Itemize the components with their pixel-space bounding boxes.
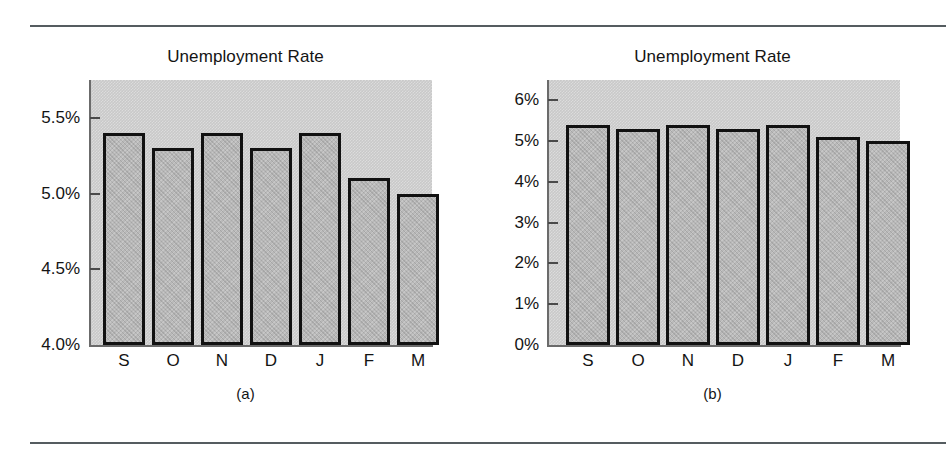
plot-area-a [90, 80, 432, 345]
y-axis-line-a [89, 80, 91, 346]
y-tick-label: 5.0% [0, 184, 80, 204]
x-tick-label-m: M [411, 351, 425, 371]
bar-series-b [548, 80, 900, 345]
y-tick-mark [90, 268, 100, 270]
y-tick-mark [548, 303, 558, 305]
top-divider-rule [30, 25, 946, 27]
x-tick-label-s: S [582, 351, 593, 371]
figure-frame: Unemployment Rate 5.5%5.0%4.5%4.0% SONDJ… [0, 0, 946, 458]
x-tick-label-j: J [784, 351, 793, 371]
x-tick-label-j: J [316, 351, 325, 371]
x-tick-label-o: O [631, 351, 644, 371]
x-tick-label-o: O [166, 351, 179, 371]
y-tick-mark [548, 99, 558, 101]
x-tick-label-f: F [833, 351, 843, 371]
bar-o [152, 148, 194, 345]
y-tick-label: 5.5% [0, 108, 80, 128]
y-tick-mark [90, 117, 100, 119]
chart-title-b: Unemployment Rate [473, 47, 946, 67]
x-tick-label-s: S [118, 351, 129, 371]
bar-f [348, 178, 390, 345]
y-tick-label: 4.0% [0, 335, 80, 355]
bottom-divider-rule [30, 442, 946, 444]
bar-s [103, 133, 145, 345]
y-tick-mark [548, 181, 558, 183]
chart-panel-b: Unemployment Rate 6%5%4%3%2%1%0% SONDJFM… [473, 30, 946, 440]
bar-f [816, 137, 860, 345]
y-tick-label: 0% [473, 335, 539, 355]
x-tick-label-d: D [732, 351, 744, 371]
y-tick-label: 6% [473, 90, 539, 110]
x-tick-label-f: F [364, 351, 374, 371]
y-tick-mark [548, 140, 558, 142]
y-tick-mark [548, 262, 558, 264]
bar-n [666, 125, 710, 345]
chart-title-a: Unemployment Rate [0, 47, 473, 67]
bar-j [766, 125, 810, 345]
plot-area-b [548, 80, 900, 345]
x-tick-label-m: M [881, 351, 895, 371]
bar-series-a [90, 80, 432, 345]
x-tick-label-n: N [216, 351, 228, 371]
x-axis-line-a [89, 345, 433, 347]
y-tick-mark [90, 193, 100, 195]
bar-m [866, 141, 910, 345]
bar-o [616, 129, 660, 345]
chart-panel-a: Unemployment Rate 5.5%5.0%4.5%4.0% SONDJ… [0, 30, 473, 440]
y-tick-mark [548, 222, 558, 224]
bar-j [299, 133, 341, 345]
bar-d [716, 129, 760, 345]
y-tick-label: 5% [473, 131, 539, 151]
panel-caption-a: (a) [0, 385, 473, 402]
x-tick-label-d: D [265, 351, 277, 371]
y-tick-label: 2% [473, 253, 539, 273]
y-tick-label: 4.5% [0, 259, 80, 279]
bar-s [566, 125, 610, 345]
y-tick-label: 3% [473, 213, 539, 233]
bar-d [250, 148, 292, 345]
bar-n [201, 133, 243, 345]
y-axis-line-b [547, 80, 549, 346]
y-tick-label: 1% [473, 294, 539, 314]
x-tick-label-n: N [682, 351, 694, 371]
x-axis-line-b [547, 345, 901, 347]
bar-m [397, 194, 439, 345]
panel-caption-b: (b) [473, 385, 946, 402]
y-tick-label: 4% [473, 172, 539, 192]
